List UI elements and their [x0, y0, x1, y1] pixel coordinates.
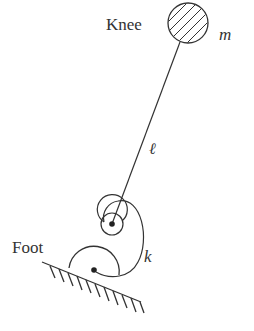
torsion-spring [96, 195, 144, 277]
spring-label: k [144, 247, 152, 266]
knee-label: Knee [106, 15, 142, 34]
foot [69, 246, 119, 275]
length-label: ℓ [149, 140, 156, 157]
leg-diagram: Knee m ℓ Foot k [0, 0, 254, 331]
mass-label: m [219, 25, 231, 44]
foot-label: Foot [12, 238, 43, 257]
knee-mass [160, 0, 224, 54]
leg-link [112, 42, 180, 224]
